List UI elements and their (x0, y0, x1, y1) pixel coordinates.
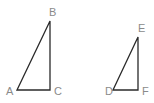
vertex-label-a: A (6, 85, 14, 97)
vertex-label-e: E (138, 22, 145, 34)
similar-triangles-diagram: A B C D E F (0, 0, 154, 103)
vertex-label-c: C (54, 85, 62, 97)
vertex-label-b: B (49, 6, 56, 18)
triangle-abc: A B C (6, 6, 62, 97)
triangle-def: D E F (105, 22, 149, 97)
vertex-label-d: D (105, 85, 113, 97)
triangle-abc-outline (17, 21, 50, 90)
triangle-def-outline (113, 37, 138, 90)
vertex-label-f: F (142, 85, 149, 97)
